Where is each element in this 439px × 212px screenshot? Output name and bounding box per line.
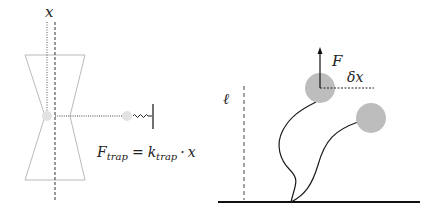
spring-icon — [133, 115, 152, 118]
trapped-bead — [42, 111, 52, 121]
displacement-label: δx — [347, 69, 363, 85]
force-label: F — [331, 52, 343, 70]
filament-2 — [291, 122, 358, 202]
length-label: ℓ — [223, 90, 229, 108]
diagram-canvas: x Ftrap=ktrap·x ℓ F δx — [0, 0, 439, 212]
displaced-bead — [122, 111, 132, 121]
arrow-head-icon — [318, 47, 323, 54]
filament-panel: ℓ F δx — [218, 47, 420, 202]
trap-force-formula: Ftrap=ktrap·x — [96, 144, 196, 162]
filament-1 — [279, 102, 316, 202]
optical-trap-panel: x Ftrap=ktrap·x — [25, 3, 196, 202]
x-axis-label: x — [45, 3, 54, 21]
bead-2 — [356, 103, 386, 133]
